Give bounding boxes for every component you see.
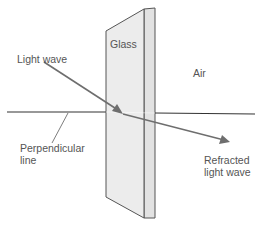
refraction-diagram: [0, 0, 265, 233]
glass-label: Glass: [110, 38, 137, 50]
refracted-label-1: Refracted: [204, 154, 251, 166]
perpendicular-leader-line: [52, 113, 68, 143]
light-wave-label: Light wave: [17, 53, 67, 65]
refracted-arrowhead-icon: [219, 135, 230, 144]
refracted-light-wave-label: Refracted light wave: [204, 154, 251, 178]
perpendicular-line-label: Perpendicular line: [20, 142, 85, 166]
refracted-label-2: light wave: [204, 166, 251, 178]
perpendicular-line-label-2: line: [20, 154, 85, 166]
air-label: Air: [193, 67, 206, 79]
perpendicular-line-label-1: Perpendicular: [20, 142, 85, 154]
perpendicular-line-right: [155, 113, 255, 114]
